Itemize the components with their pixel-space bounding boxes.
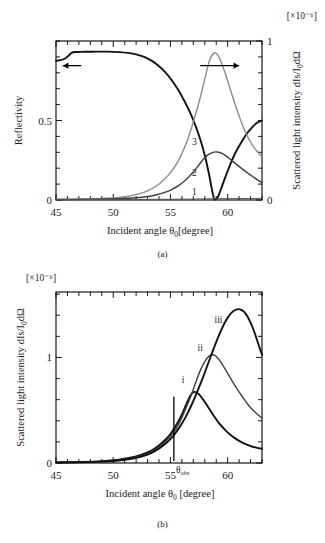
panel-b-xtick-label-60: 60 [222,469,234,481]
panel-a-xtick-label-45: 45 [51,206,63,218]
panel-a-curve-2 [56,152,262,200]
panel-a-xtick-label-50: 50 [108,206,120,218]
panel-b-plot-frame [56,292,262,463]
chart-panel-b: 4550556001iiiiiiθobsIncident angle θ0 [d… [0,268,325,543]
panel-a-canvas: 4550556000.501321Incident angle θ0[degre… [0,0,325,272]
panel-a-curve-label-3: 3 [192,137,197,147]
panel-b-scale-exponent: [×10⁻⁶] [26,272,56,283]
panel-a-right-scale-exponent: [×10⁻⁶] [287,10,317,21]
chart-panel-a: 4550556000.501321Incident angle θ0[degre… [0,0,325,272]
panel-b-curve-label-iii: iii [215,315,223,325]
panel-a-ytick-right-label-1: 1 [267,35,273,47]
panel-b-curve-iii [56,309,262,462]
panel-a-plot-frame [56,41,262,200]
panel-a-curve-label-1: 1 [192,187,197,197]
panel-b-curve-label-ii: ii [198,343,204,353]
panel-b-curve-i [56,392,262,463]
panel-a-curve-0 [56,52,262,200]
panel-a-xtick-label-60: 60 [222,206,234,218]
left-axis-arrow-head [63,62,69,68]
panel-a-xaxis-title: Incident angle θ0[degree] [107,225,213,239]
panel-a-ytick-right-label-0: 0 [267,194,273,206]
right-axis-arrow-head [234,62,240,68]
figure-container: 4550556000.501321Incident angle θ0[degre… [0,0,325,543]
panel-a-yaxis-left-title: Reflectivity [13,95,24,145]
panel-a-yaxis-right-title: Scattered light intensity dIs/I0dΩ [291,51,305,190]
panel-b-xtick-label-45: 45 [51,469,63,481]
panel-b-canvas: 4550556001iiiiiiθobsIncident angle θ0 [d… [0,268,325,543]
panel-b-yaxis-title: Scattered light intensity dIs/I0dΩ [15,308,29,447]
panel-a-ytick-left-label-0: 0 [47,194,53,206]
panel-b-ytick-label-1: 1 [47,351,53,363]
panel-a-curve-3 [56,53,262,200]
panel-b-xtick-label-50: 50 [108,469,120,481]
panel-a-xtick-label-55: 55 [165,206,177,218]
panel-a-curve-label-2: 2 [192,168,197,178]
panel-b-xtick-label-55: 55 [165,469,177,481]
panel-b-ytick-label-0: 0 [47,457,53,469]
panel-b-caption: (b) [0,519,325,529]
panel-b-xaxis-title: Incident angle θ0 [degree] [106,488,215,502]
panel-a-ytick-left-label-1: 0.5 [38,115,52,127]
panel-a-xaxis-title-text: Incident angle θ0[degree] [107,225,213,239]
panel-b-curve-label-i: i [182,375,185,385]
theta-obs-marker-label: θobs [176,465,190,477]
panel-a-caption: (a) [0,249,325,259]
